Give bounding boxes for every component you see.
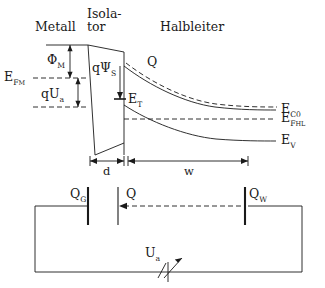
charge-q-dashed-curve [126,63,277,107]
label-q-ua-subscript: a [60,95,65,104]
label-dimension-d: d [103,166,110,178]
label-q-ua: qUa [41,88,64,103]
dimension-w-arrow-left [128,158,135,164]
label-charge-qg-text: Q [70,186,80,201]
phi-m-arrow-head-up [67,45,72,51]
region-label-insulator-line2: tor [87,21,106,34]
label-q-psi-s: qΨS [92,62,116,77]
label-charge-qg: QG [70,188,86,203]
label-e-t-text: E [128,91,137,106]
region-label-metal: Metall [35,21,76,34]
label-charge-q-circuit: Q [126,188,136,201]
region-label-semiconductor: Halbleiter [160,21,224,34]
label-voltage-ua: Ua [145,247,160,262]
label-e-fm-text: E [4,69,13,84]
label-voltage-ua-subscript: a [156,254,161,263]
valence-band-curve [124,105,276,141]
figure-canvas [0,0,325,288]
label-e-fm: EFM [4,71,25,86]
mis-band-diagram-figure: Metall Isola- tor Halbleiter ΦM EFM qUa … [0,0,325,288]
label-e-v-subscript: V [290,141,295,150]
label-e-v-text: E [281,132,290,147]
label-dimension-w: w [184,166,194,178]
label-phi-m: ΦM [47,54,65,69]
voltage-source-slash [158,263,166,278]
q-ua-arrow-head-up [75,78,80,84]
label-e-fhl-text: E [281,110,290,125]
label-q-ua-text: qU [41,86,60,101]
charge-q-arrow-head [119,203,127,209]
insulator-valence-slope [95,143,124,155]
phi-m-arrow-head-down [67,72,72,78]
label-charge-q-band: Q [147,56,157,69]
dimension-w-arrow-right [241,158,248,164]
insulator-conduction-slope [88,45,124,52]
label-e-t-subscript: T [137,100,142,109]
conduction-band-curve [124,66,276,110]
label-e-t: ET [128,93,142,108]
label-q-psi-s-text: qΨ [92,60,111,75]
label-e-fm-subscript2: M [18,79,25,87]
label-phi-m-subscript: M [57,61,65,70]
label-voltage-ua-text: U [145,245,156,260]
q-ua-arrow-head-down [75,101,80,107]
label-charge-qw-text: Q [249,186,259,201]
dimension-d-arrow-right [117,158,124,164]
voltage-source-variable-arrow-head [175,258,182,263]
label-e-fhl-subscript2: HL [295,120,305,128]
label-charge-qw: QW [249,188,267,203]
dimension-d-arrow-left [90,158,97,164]
label-phi-m-text: Φ [47,52,57,67]
label-e-fhl: EFHL [281,112,305,127]
label-charge-qg-subscript: G [80,195,86,204]
label-charge-qw-subscript: W [259,195,267,204]
label-e-v: EV [281,134,296,149]
label-q-psi-s-subscript: S [111,69,116,78]
trap-level-arrow-head [117,92,123,99]
